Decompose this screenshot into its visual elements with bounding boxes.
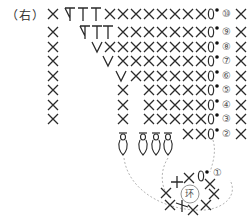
ring-label: 环: [185, 189, 194, 199]
row-number-7: ⑦: [222, 56, 231, 66]
row-number-5: ⑤: [222, 85, 231, 95]
row-number-10: ⑩: [222, 9, 231, 19]
row-number-2: ②: [222, 129, 231, 139]
row-number-4: ④: [222, 100, 231, 110]
row-number-9: ⑨: [222, 27, 231, 37]
row-number-8: ⑧: [222, 42, 231, 52]
crochet-chart: （右）: [0, 0, 251, 217]
row-number-6: ⑥: [222, 71, 231, 81]
row-number-3: ③: [222, 114, 231, 124]
chart-lines: [0, 0, 251, 217]
row-number-1: ①: [213, 168, 222, 178]
